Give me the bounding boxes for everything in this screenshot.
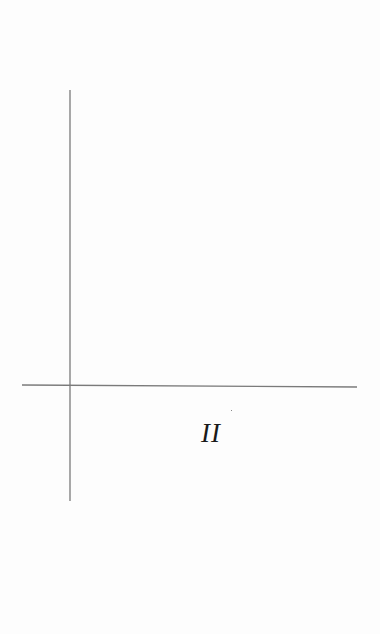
- ink-speck: [231, 410, 232, 411]
- horizontal-axis: [22, 385, 357, 387]
- quadrant-label: II: [201, 420, 221, 447]
- coordinate-axes: [0, 0, 380, 634]
